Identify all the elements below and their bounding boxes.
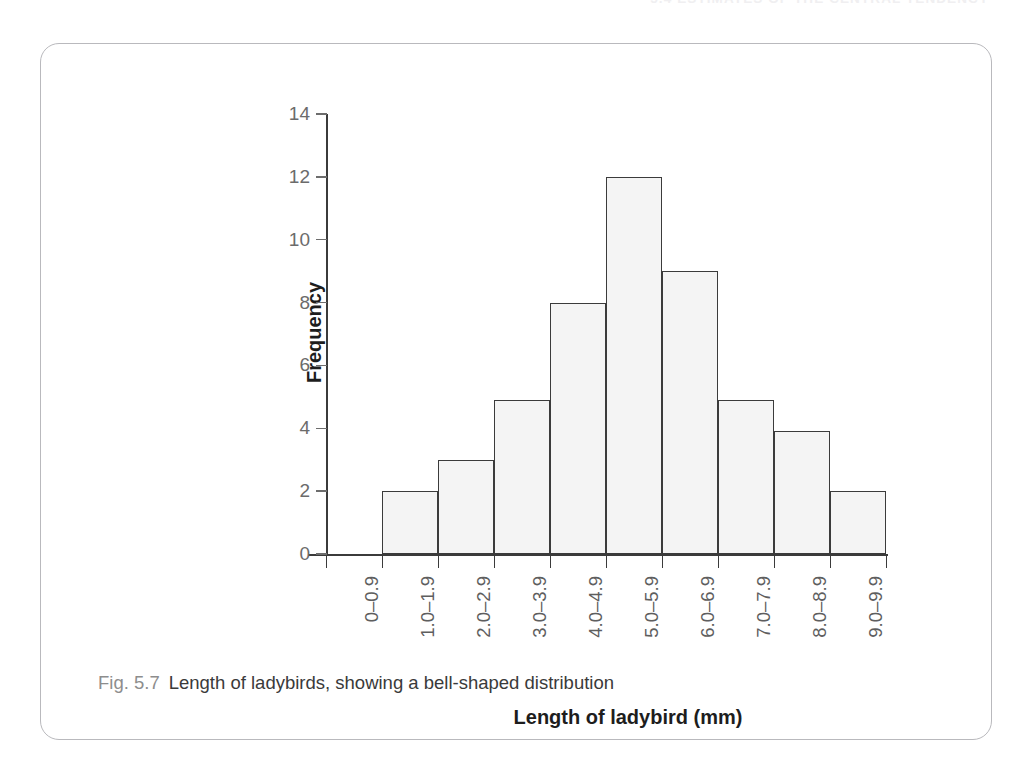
x-axis-tick: [662, 555, 663, 568]
y-axis-tick-label: 12: [274, 166, 310, 188]
y-axis-tick-label: 6: [274, 354, 310, 376]
histogram-bar: [494, 400, 550, 554]
y-axis-tick-label: 2: [274, 480, 310, 502]
x-axis-tick: [886, 555, 887, 568]
x-axis-title: Length of ladybird (mm): [348, 706, 908, 729]
y-axis-tick-label: 8: [274, 292, 310, 314]
figure-caption: Fig. 5.7Length of ladybirds, showing a b…: [98, 672, 614, 694]
histogram-bar: [662, 271, 718, 554]
histogram-bar: [606, 177, 662, 554]
x-axis-tick-label: 5.0–5.9: [641, 576, 663, 638]
x-axis-tick-label: 6.0–6.9: [697, 576, 719, 638]
x-axis-tick: [550, 555, 551, 568]
x-axis-tick-label: 3.0–3.9: [529, 576, 551, 638]
x-axis-tick-label: 0–0.9: [361, 576, 383, 622]
figure-panel: Frequency 02468101214 0–0.91.0–1.92.0–2.…: [40, 43, 992, 740]
plot-area: [326, 114, 886, 554]
y-axis-tick-label: 4: [274, 417, 310, 439]
x-axis-tick: [382, 555, 383, 568]
x-axis-tick-label: 1.0–1.9: [417, 576, 439, 638]
x-axis-tick: [718, 555, 719, 568]
x-axis-tick-label: 9.0–9.9: [865, 576, 887, 638]
histogram-bar: [830, 491, 886, 554]
x-axis-tick: [494, 555, 495, 568]
y-axis-tick-label: 14: [274, 103, 310, 125]
figure-caption-text: Length of ladybirds, showing a bell-shap…: [169, 672, 614, 693]
x-axis-tick: [606, 555, 607, 568]
histogram-bar: [550, 303, 606, 554]
y-axis-tick-label: 0: [274, 543, 310, 565]
x-axis-line: [308, 554, 888, 556]
x-axis-tick: [830, 555, 831, 568]
histogram-bar: [718, 400, 774, 554]
x-axis-tick-label: 7.0–7.9: [753, 576, 775, 638]
histogram-bar: [774, 431, 830, 554]
figure-caption-number: Fig. 5.7: [98, 672, 160, 693]
running-header: 5.4 ESTIMATES OF THE CENTRAL TENDENCY: [0, 0, 1029, 9]
x-axis-tick-label: 2.0–2.9: [473, 576, 495, 638]
y-axis-tick-label: 10: [274, 229, 310, 251]
x-axis-tick: [774, 555, 775, 568]
x-axis-tick-label: 8.0–8.9: [809, 576, 831, 638]
histogram-chart: Frequency 02468101214 0–0.91.0–1.92.0–2.…: [286, 106, 906, 606]
histogram-bar: [382, 491, 438, 554]
x-axis-tick-label: 4.0–4.9: [585, 576, 607, 638]
x-axis-tick: [326, 555, 327, 568]
x-axis-tick: [438, 555, 439, 568]
histogram-bar: [438, 460, 494, 554]
